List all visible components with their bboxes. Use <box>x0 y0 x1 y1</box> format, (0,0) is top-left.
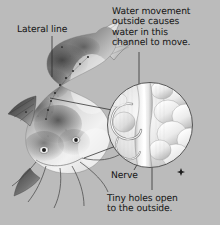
label-lateral-line: Lateral line <box>17 25 67 35</box>
label-nerve: Nerve <box>111 171 138 181</box>
lateral-line-diagram: Lateral line Water movement outside caus… <box>0 0 220 225</box>
label-tiny-holes: Tiny holes open to the outside. <box>107 194 178 215</box>
label-water-movement: Water movement outside causes water in t… <box>112 7 190 49</box>
